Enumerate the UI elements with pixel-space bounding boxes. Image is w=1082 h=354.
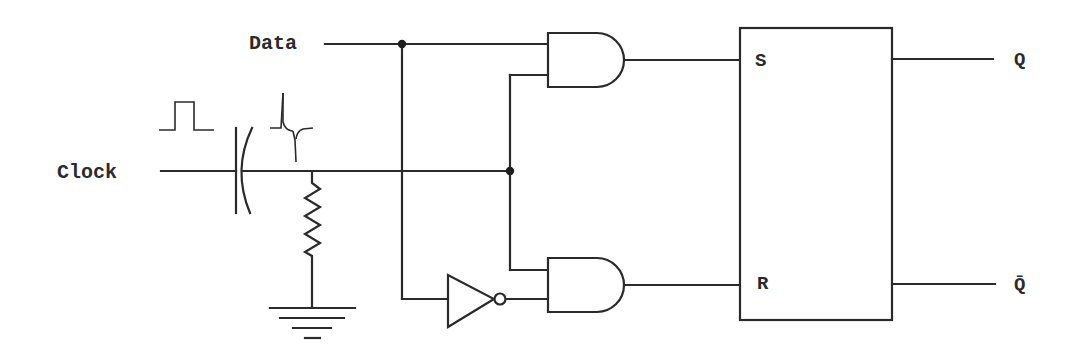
set-pin-label: S — [755, 50, 766, 72]
clock-junction-dot — [506, 167, 514, 175]
and-gate-bottom-icon — [548, 258, 738, 312]
not-gate-icon — [448, 275, 548, 327]
clock-input-label: Clock — [57, 161, 117, 184]
data-junction-dot — [398, 40, 406, 48]
resistor-icon — [305, 171, 320, 308]
spike-pulse-icon — [270, 93, 313, 162]
square-pulse-icon — [159, 102, 214, 130]
clock-branch-wire — [510, 75, 548, 270]
ground-icon — [270, 308, 355, 338]
q-output-label: Q — [1014, 49, 1025, 71]
data-input-label: Data — [249, 32, 297, 55]
and-gate-top-icon — [548, 33, 738, 87]
q-bar-output-label: Q̄ — [1014, 274, 1025, 296]
reset-pin-label: R — [757, 273, 769, 295]
output-wires — [892, 59, 995, 284]
d-flip-flop-circuit-diagram: Data Clock — [0, 0, 1082, 354]
